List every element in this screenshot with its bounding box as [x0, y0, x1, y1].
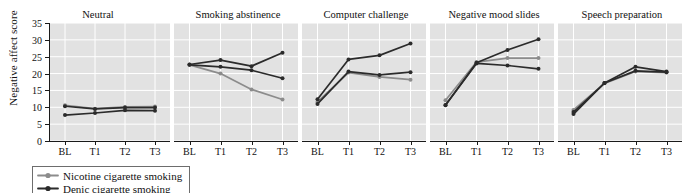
x-axis-tick	[221, 141, 222, 145]
y-axis-tick-label: 30	[32, 34, 42, 45]
data-point	[281, 98, 285, 102]
plot-area	[558, 23, 682, 141]
data-point	[537, 37, 541, 41]
gridlines	[302, 23, 426, 141]
data-point	[188, 63, 192, 67]
panel-title: Neutral	[22, 8, 174, 21]
x-axis-tick-label: T1	[215, 146, 226, 157]
x-axis-tick	[283, 141, 284, 145]
x-axis-tick	[667, 141, 668, 145]
x-axis-tick-label: T1	[599, 146, 610, 157]
y-axis-tick-label: 5	[37, 119, 42, 130]
series-line	[316, 42, 413, 102]
panel-negative-mood-slides: Negative mood slidesBLT1T2T3	[430, 8, 558, 160]
data-point	[347, 57, 351, 61]
panel-neutral: Neutral05101520253035BLT1T2T3	[22, 8, 174, 160]
data-point	[250, 87, 254, 91]
data-point	[316, 102, 320, 106]
x-axis-tick	[508, 141, 509, 145]
plot-area	[430, 23, 554, 141]
data-point	[603, 81, 607, 85]
x-axis-tick-label: BL	[567, 146, 580, 157]
x-axis-tick	[574, 141, 575, 145]
plot-area	[302, 23, 426, 141]
x-axis-tick	[95, 141, 96, 145]
x-axis-tick	[190, 141, 191, 145]
panel-computer-challenge: Computer challengeBLT1T2T3	[302, 8, 430, 160]
series-line	[444, 56, 541, 102]
x-axis-tick	[349, 141, 350, 145]
data-point	[537, 67, 541, 71]
legend-item: Nicotine cigarette smoking	[37, 169, 182, 182]
panel-speech-preparation: Speech preparationBLT1T2T3	[558, 8, 686, 160]
series-line	[316, 71, 413, 104]
legend-label: Nicotine cigarette smoking	[63, 170, 182, 182]
x-axis-tick-label: T2	[374, 146, 385, 157]
x-axis-spine	[302, 141, 426, 142]
panel-title: Negative mood slides	[430, 8, 558, 21]
plot-background	[174, 23, 298, 141]
x-axis-tick-label: T3	[277, 146, 288, 157]
y-axis-tick-label: 35	[32, 18, 42, 29]
series-line	[63, 108, 157, 117]
data-point	[537, 56, 541, 60]
legend-item: Denic cigarette smoking	[37, 182, 182, 193]
y-axis-tick-label: 10	[32, 102, 42, 113]
series-line	[188, 63, 285, 80]
panel-title: Speech preparation	[558, 8, 686, 21]
x-axis-tick	[252, 141, 253, 145]
x-axis-tick-label: T3	[533, 146, 544, 157]
gridlines	[50, 23, 170, 141]
data-point	[281, 76, 285, 80]
x-axis-tick	[446, 141, 447, 145]
x-axis-tick-label: T1	[471, 146, 482, 157]
data-point	[63, 113, 67, 117]
x-axis-tick-label: BL	[311, 146, 324, 157]
data-point	[347, 70, 351, 74]
data-point	[572, 110, 576, 114]
x-axis-tick-label: T2	[502, 146, 513, 157]
legend-line-marker-icon	[37, 183, 59, 193]
x-axis-spine	[430, 141, 554, 142]
figure: Negative affect score Neutral05101520253…	[0, 0, 686, 193]
panel-title: Smoking abstinence	[174, 8, 302, 21]
x-axis-tick-label: T2	[119, 146, 130, 157]
x-axis-tick	[539, 141, 540, 145]
data-point	[316, 97, 320, 101]
plot-area	[50, 23, 170, 141]
legend-label: Denic cigarette smoking	[63, 183, 171, 194]
data-point	[409, 70, 413, 74]
x-axis-tick-label: T1	[89, 146, 100, 157]
plot-background	[430, 23, 554, 141]
plot-background	[50, 23, 170, 141]
data-point	[506, 63, 510, 67]
x-axis: BLT1T2T3	[50, 141, 170, 159]
x-axis-tick-label: BL	[183, 146, 196, 157]
x-axis: BLT1T2T3	[430, 141, 554, 159]
x-axis-tick	[636, 141, 637, 145]
data-point	[153, 109, 157, 113]
y-axis-tick-label: 15	[32, 85, 42, 96]
series-line	[444, 37, 541, 107]
x-axis-tick	[380, 141, 381, 145]
data-point	[506, 48, 510, 52]
data-point	[281, 51, 285, 55]
x-axis-tick	[65, 141, 66, 145]
plot-background	[558, 23, 682, 141]
legend-line-marker-icon	[37, 170, 59, 181]
x-axis-tick	[318, 141, 319, 145]
x-axis: BLT1T2T3	[302, 141, 426, 159]
data-point	[219, 65, 223, 69]
x-axis-tick-label: T3	[405, 146, 416, 157]
data-point	[378, 73, 382, 77]
panel-row: Neutral05101520253035BLT1T2T3Smoking abs…	[22, 8, 686, 160]
x-axis-tick	[605, 141, 606, 145]
data-point	[123, 108, 127, 112]
chart-legend: Nicotine cigarette smokingDenic cigarett…	[32, 166, 190, 193]
data-point	[444, 98, 448, 102]
panel-title: Computer challenge	[302, 8, 430, 21]
data-point	[634, 65, 638, 69]
x-axis-spine	[174, 141, 298, 142]
data-point	[634, 69, 638, 73]
y-axis-title: Negative affect score	[7, 0, 19, 123]
